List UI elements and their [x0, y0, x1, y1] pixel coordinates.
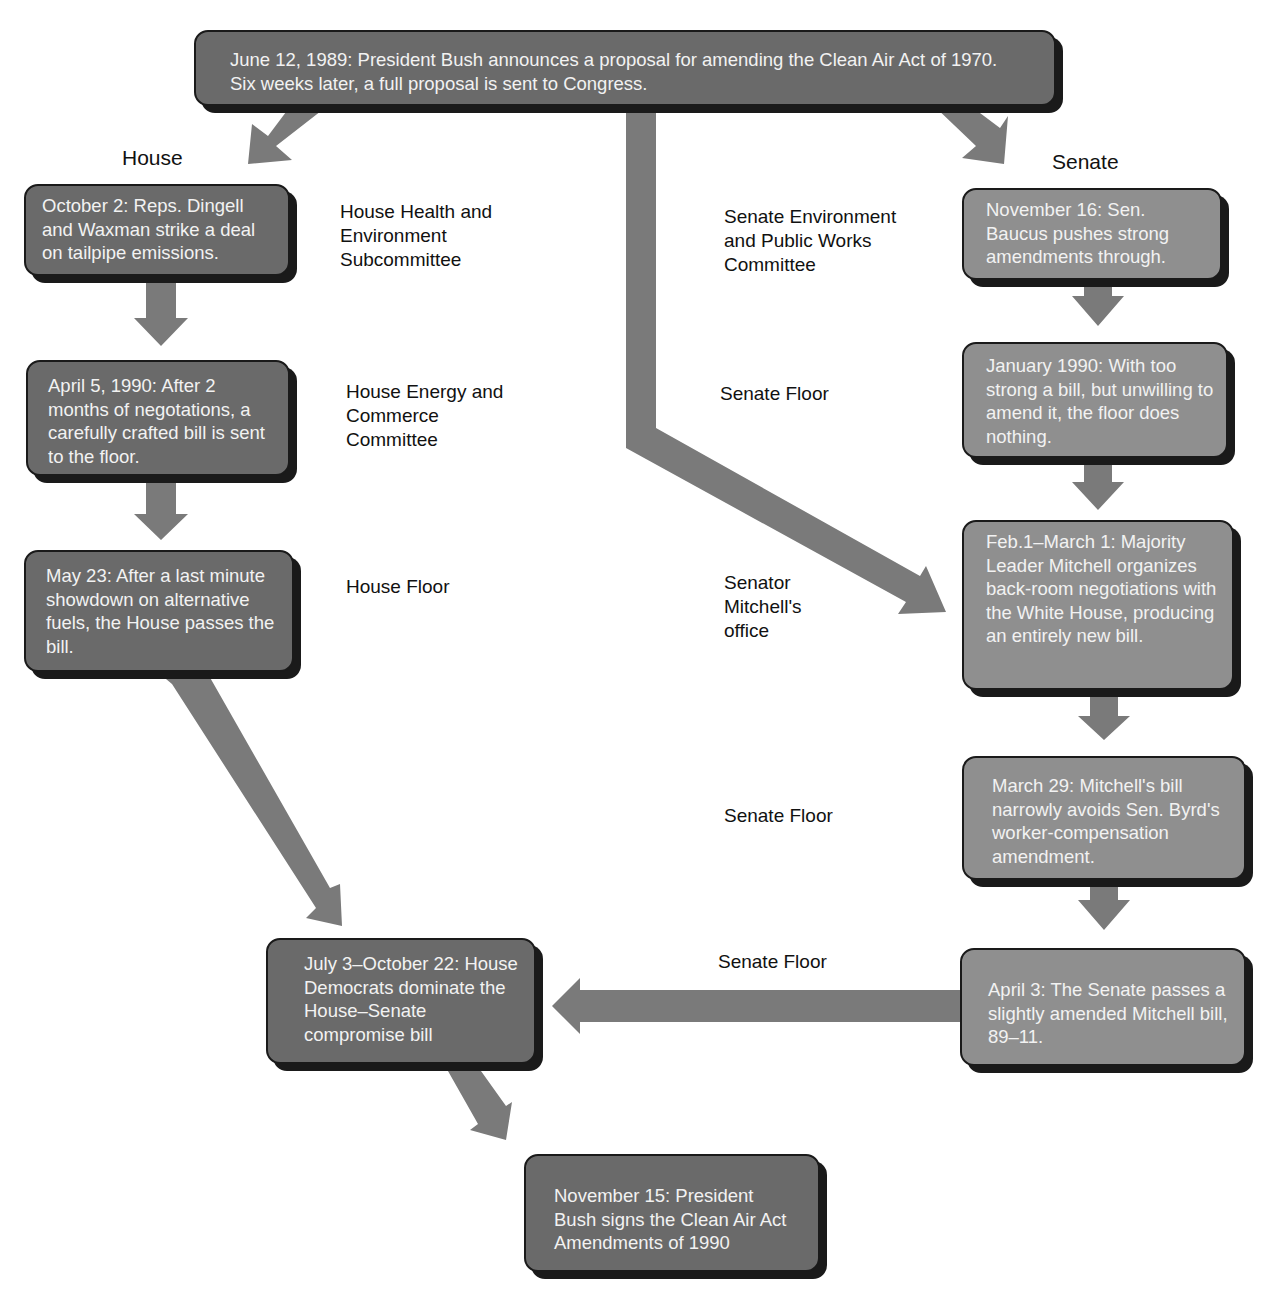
house-step-2-box: April 5, 1990: After 2 months of negotat…	[26, 360, 290, 476]
arrow-house-1-2	[134, 274, 188, 346]
house-step-3-box: May 23: After a last minute showdown on …	[24, 550, 294, 672]
conference-text: July 3–October 22: House Democrats domin…	[304, 952, 524, 1046]
house-step-3-text: May 23: After a last minute showdown on …	[46, 564, 278, 658]
arrow-to-mitchell-office	[626, 104, 946, 614]
house-step-1-venue: House Health and Environment Subcommitte…	[340, 200, 520, 272]
senate-step-1-venue: Senate Environment and Public Works Comm…	[724, 205, 924, 277]
arrow-senate-to-conference	[552, 978, 960, 1034]
final-box: November 15: President Bush signs the Cl…	[524, 1154, 820, 1272]
house-step-3-venue: House Floor	[346, 575, 450, 599]
senate-step-3-text: Feb.1–March 1: Majority Leader Mitchell …	[986, 530, 1222, 648]
senate-step-1-text: November 16: Sen. Baucus pushes strong a…	[986, 198, 1206, 269]
conference-box: July 3–October 22: House Democrats domin…	[266, 938, 536, 1064]
senate-step-3-box: Feb.1–March 1: Majority Leader Mitchell …	[962, 520, 1234, 690]
arrow-senate-4-5	[1078, 880, 1130, 930]
house-step-2-text: April 5, 1990: After 2 months of negotat…	[48, 374, 274, 468]
start-event-text: June 12, 1989: President Bush announces …	[230, 48, 1020, 95]
senate-step-4-venue: Senate Floor	[724, 804, 833, 828]
senate-step-2-text: January 1990: With too strong a bill, bu…	[986, 354, 1214, 448]
house-step-2-venue: House Energy and Commerce Committee	[346, 380, 536, 452]
arrow-to-senate	[932, 104, 1008, 164]
senate-step-3-venue: Senator Mitchell's office	[724, 571, 834, 643]
house-step-1-box: October 2: Reps. Dingell and Waxman stri…	[24, 184, 290, 276]
senate-step-1-box: November 16: Sen. Baucus pushes strong a…	[962, 188, 1222, 280]
arrow-senate-1-2	[1072, 280, 1124, 326]
senate-step-2-box: January 1990: With too strong a bill, bu…	[962, 342, 1228, 458]
arrow-senate-3-4	[1078, 690, 1130, 740]
arrow-house-to-conference	[160, 674, 342, 926]
senate-step-5-venue: Senate Floor	[718, 950, 827, 974]
final-text: November 15: President Bush signs the Cl…	[554, 1184, 800, 1255]
senate-step-4-text: March 29: Mitchell's bill narrowly avoid…	[992, 774, 1236, 868]
senate-step-4-box: March 29: Mitchell's bill narrowly avoid…	[962, 756, 1246, 880]
arrow-senate-2-3	[1072, 456, 1124, 510]
house-heading: House	[122, 146, 183, 170]
start-event-box: June 12, 1989: President Bush announces …	[194, 30, 1056, 106]
arrow-house-2-3	[134, 476, 188, 540]
senate-step-5-box: April 3: The Senate passes a slightly am…	[960, 948, 1246, 1066]
arrow-to-house	[248, 104, 330, 164]
senate-heading: Senate	[1052, 150, 1119, 174]
senate-step-5-text: April 3: The Senate passes a slightly am…	[988, 978, 1234, 1049]
arrow-conference-to-final	[444, 1064, 512, 1140]
senate-step-2-venue: Senate Floor	[720, 382, 829, 406]
house-step-1-text: October 2: Reps. Dingell and Waxman stri…	[42, 194, 274, 265]
